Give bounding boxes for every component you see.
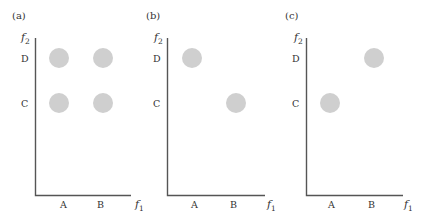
panel-b-y-axis-label: f2 xyxy=(153,31,163,46)
panel-c-y-tick-d: D xyxy=(292,53,300,64)
panel-c: (c) f2 D C A B f1 xyxy=(285,10,413,213)
panel-c-x-tick-a: A xyxy=(327,199,335,210)
panel-b-point-bc xyxy=(226,93,246,113)
panel-a-x-tick-a: A xyxy=(59,199,67,210)
panel-b-y-tick-c: C xyxy=(153,98,160,109)
panel-a-x-tick-b: B xyxy=(97,199,104,210)
panel-c-y-tick-c: C xyxy=(292,98,299,109)
panel-b-x-tick-a: A xyxy=(190,199,198,210)
panel-a-y-axis-label: f2 xyxy=(20,31,30,46)
panel-a: (a) f2 D C A B f1 xyxy=(12,10,144,213)
panel-a-label: (a) xyxy=(12,10,26,21)
panel-b-label: (b) xyxy=(146,10,160,21)
panel-c-label: (c) xyxy=(285,10,299,21)
panel-a-point-ac xyxy=(49,93,69,113)
panel-a-y-tick-c: C xyxy=(21,98,28,109)
panel-b-x-tick-b: B xyxy=(230,199,237,210)
figure-canvas: (a) f2 D C A B f1 (b) f2 D C A B f1 (c) … xyxy=(0,0,425,220)
panel-b-point-ad xyxy=(182,48,202,68)
panel-a-point-ad xyxy=(49,48,69,68)
panel-a-point-bd xyxy=(93,48,113,68)
panel-b-y-tick-d: D xyxy=(153,53,161,64)
panel-c-x-axis-label: f1 xyxy=(403,198,413,213)
panel-c-y-axis-label: f2 xyxy=(293,31,303,46)
panel-c-point-ac xyxy=(320,93,340,113)
panel-c-x-tick-b: B xyxy=(368,199,375,210)
panel-b-x-axis-label: f1 xyxy=(266,198,276,213)
panel-a-y-tick-d: D xyxy=(21,53,29,64)
panel-a-point-bc xyxy=(93,93,113,113)
panel-b: (b) f2 D C A B f1 xyxy=(146,10,276,213)
panel-c-axes xyxy=(307,38,404,196)
panel-a-x-axis-label: f1 xyxy=(134,198,144,213)
panel-b-axes xyxy=(168,38,266,196)
panel-c-point-bd xyxy=(364,48,384,68)
